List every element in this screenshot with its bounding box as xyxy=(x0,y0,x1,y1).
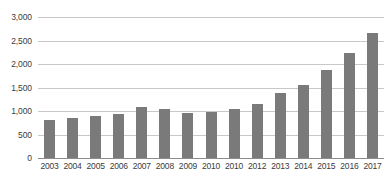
bar-2007-4 xyxy=(136,107,147,158)
bar-chart: 3,000 2,500 2,000 1,500 1,000 500 0 2003… xyxy=(0,0,386,177)
bar-2004-1 xyxy=(67,118,78,158)
bar-2016-13 xyxy=(344,53,355,158)
bar-2010-7 xyxy=(206,112,217,158)
y-tick-label-2500: 2,500 xyxy=(0,36,32,46)
y-tick-label-1500: 1,500 xyxy=(0,83,32,93)
y-tick-label-0: 0 xyxy=(0,153,32,163)
bar-2008-5 xyxy=(159,109,170,158)
bar-2012-9 xyxy=(252,104,263,158)
y-tick-label-1000: 1,000 xyxy=(0,106,32,116)
x-axis-labels: 2003200420052006200720082009201020102012… xyxy=(38,161,384,175)
bar-series xyxy=(38,10,384,158)
y-tick-label-2000: 2,000 xyxy=(0,59,32,69)
bar-2014-11 xyxy=(298,85,309,158)
bar-2017-14 xyxy=(367,33,378,158)
bar-2010-8 xyxy=(229,109,240,158)
bar-2013-10 xyxy=(275,93,286,158)
bar-2005-2 xyxy=(90,116,101,158)
y-tick-label-500: 500 xyxy=(0,130,32,140)
y-tick-label-3000: 3,000 xyxy=(0,12,32,22)
bar-2003-0 xyxy=(44,120,55,158)
bar-2015-12 xyxy=(321,70,332,158)
axis-baseline xyxy=(38,158,384,159)
bar-2009-6 xyxy=(182,113,193,158)
x-tick-label-14: 2017 xyxy=(359,161,385,171)
bar-2006-3 xyxy=(113,114,124,158)
